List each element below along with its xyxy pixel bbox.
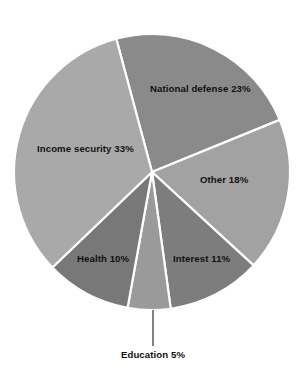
pie-slices [14,34,290,310]
pie-label-national-defense: National defense 23% [150,83,251,94]
pie-label-interest: Interest 11% [173,253,231,264]
pie-label-education: Education 5% [121,349,185,360]
pie-chart: National defense 23%Other 18%Interest 11… [0,0,308,377]
pie-label-health: Health 10% [77,253,130,264]
pie-label-other: Other 18% [200,174,249,185]
pie-chart-canvas: National defense 23%Other 18%Interest 11… [0,0,308,377]
pie-label-income-security: Income security 33% [37,143,134,154]
